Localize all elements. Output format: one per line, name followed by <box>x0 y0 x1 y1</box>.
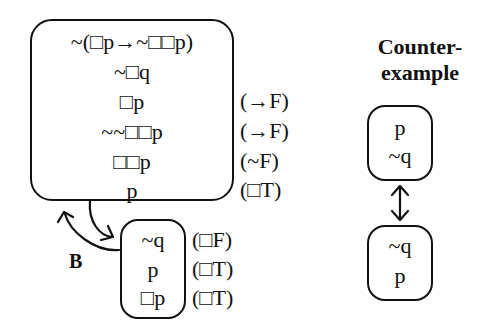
accessibility-arrow-down <box>90 201 112 237</box>
arrows-layer <box>0 0 492 335</box>
